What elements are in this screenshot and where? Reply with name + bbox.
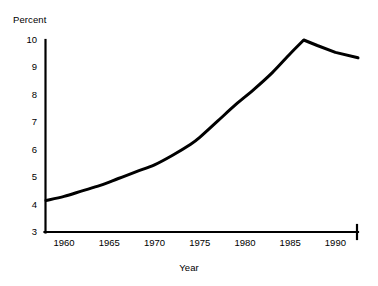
x-tick-label: 1980	[223, 238, 267, 248]
y-tick-label: 3	[11, 227, 37, 237]
y-tick-label: 5	[11, 172, 37, 182]
x-axis-title: Year	[0, 262, 378, 273]
y-tick-label: 4	[11, 200, 37, 210]
y-tick-label: 10	[11, 35, 37, 45]
x-tick-label: 1965	[87, 238, 131, 248]
y-tick-label: 7	[11, 117, 37, 127]
y-axis-title: Percent	[13, 14, 46, 25]
x-tick-label: 1960	[42, 238, 86, 248]
axes-group	[45, 40, 359, 239]
y-tick-label: 9	[11, 62, 37, 72]
x-tick-label: 1975	[178, 238, 222, 248]
y-tick-label: 6	[11, 145, 37, 155]
y-tick-label: 8	[11, 90, 37, 100]
line-chart: Percent Year 345678910 19601965197019751…	[0, 0, 378, 286]
x-tick-label: 1985	[268, 238, 312, 248]
x-tick-label: 1990	[313, 238, 357, 248]
x-tick-label: 1970	[133, 238, 177, 248]
data-series-line	[46, 40, 358, 200]
